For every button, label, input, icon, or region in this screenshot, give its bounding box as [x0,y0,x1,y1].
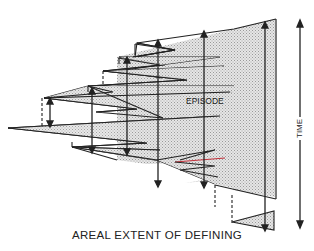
time-axis-label: TIME [295,117,304,140]
episode-label: EPISODE [186,96,224,106]
bottom-triangle [232,211,274,230]
stratigraphic-episode-diagram [0,0,314,251]
diagram-caption: AREAL EXTENT OF DEFINING [0,229,314,241]
